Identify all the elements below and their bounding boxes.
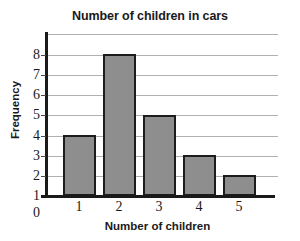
y-tick-label-2: 2 [24, 169, 40, 183]
x-tick-label-4: 4 [184, 200, 214, 214]
y-axis-title: Frequency [9, 70, 21, 150]
y-tick-mark [41, 55, 46, 56]
gridline [47, 95, 278, 96]
gridline [47, 75, 278, 76]
y-tick-label-4: 4 [24, 129, 40, 143]
x-axis-title: Number of children [40, 220, 275, 232]
plot-area: 8 7 6 5 4 3 2 1 0 1 2 3 4 5 Frequency Nu… [0, 0, 300, 241]
x-tick-label-2: 2 [104, 200, 134, 214]
x-tick-label-5: 5 [224, 200, 254, 214]
y-tick-mark [41, 95, 46, 96]
gridline [47, 34, 278, 35]
y-tick-label-1: 1 [24, 189, 40, 203]
x-axis-line [41, 195, 275, 198]
y-tick-label-7: 7 [24, 68, 40, 82]
x-tick-label-3: 3 [144, 200, 174, 214]
y-tick-label-6: 6 [24, 88, 40, 102]
bar-category-2 [103, 54, 136, 196]
gridline [47, 55, 278, 56]
y-tick-mark [41, 176, 46, 177]
bar-category-5 [223, 175, 256, 196]
y-tick-label-8: 8 [24, 48, 40, 62]
x-tick-label-1: 1 [64, 200, 94, 214]
bar-category-4 [183, 155, 216, 196]
bar-category-3 [143, 115, 176, 196]
y-tick-mark [41, 136, 46, 137]
y-tick-label-0: 0 [24, 206, 40, 220]
y-tick-label-3: 3 [24, 149, 40, 163]
y-tick-label-5: 5 [24, 108, 40, 122]
y-tick-mark [41, 156, 46, 157]
bar-chart-figure: Number of children in cars 8 7 6 5 4 [0, 0, 300, 241]
y-tick-mark [41, 115, 46, 116]
y-tick-mark [41, 75, 46, 76]
bar-category-1 [63, 135, 96, 196]
